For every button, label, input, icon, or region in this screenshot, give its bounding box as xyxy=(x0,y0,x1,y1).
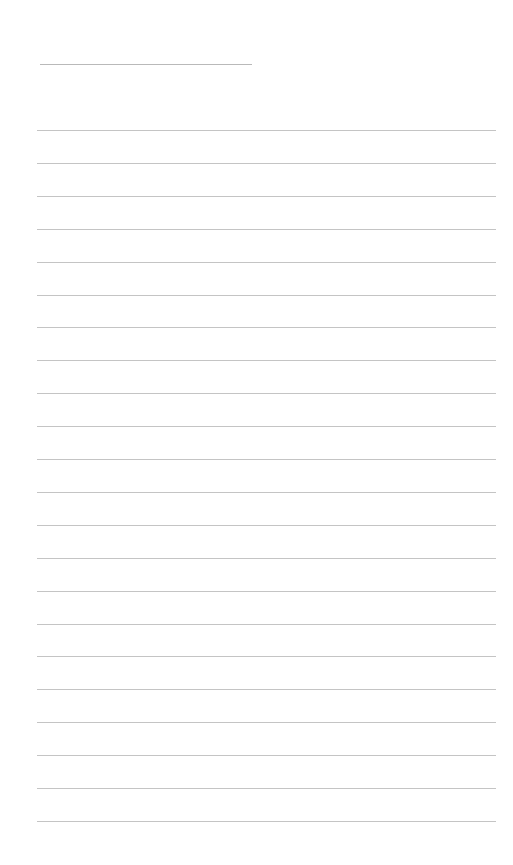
ruled-line xyxy=(37,591,496,592)
ruled-line xyxy=(37,262,496,263)
ruled-line xyxy=(37,755,496,756)
ruled-line xyxy=(37,295,496,296)
ruled-line xyxy=(37,525,496,526)
ruled-line xyxy=(37,492,496,493)
ruled-line xyxy=(37,689,496,690)
title-line xyxy=(40,64,252,65)
ruled-line xyxy=(37,821,496,822)
ruled-line xyxy=(37,229,496,230)
lined-page xyxy=(0,0,513,865)
ruled-line xyxy=(37,459,496,460)
ruled-line xyxy=(37,327,496,328)
ruled-line xyxy=(37,722,496,723)
ruled-line xyxy=(37,196,496,197)
ruled-line xyxy=(37,360,496,361)
ruled-line xyxy=(37,393,496,394)
ruled-line xyxy=(37,130,496,131)
ruled-line xyxy=(37,788,496,789)
ruled-line xyxy=(37,624,496,625)
ruled-line xyxy=(37,163,496,164)
ruled-line xyxy=(37,656,496,657)
ruled-line xyxy=(37,426,496,427)
ruled-line xyxy=(37,558,496,559)
